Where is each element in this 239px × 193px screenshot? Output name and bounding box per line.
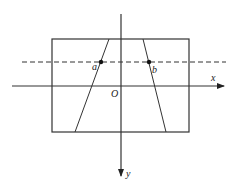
y-axis-label: y: [125, 168, 131, 179]
diagram-canvas: a b O x y: [0, 0, 239, 193]
point-a: [99, 60, 103, 64]
x-axis-label: x: [210, 72, 216, 83]
origin-label: O: [111, 88, 118, 99]
point-b: [147, 60, 151, 64]
point-a-label: a: [92, 61, 97, 72]
point-b-label: b: [152, 64, 157, 75]
